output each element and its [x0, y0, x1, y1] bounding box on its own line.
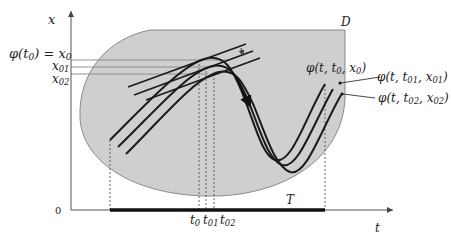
y-tick-x02: x02 — [52, 73, 69, 87]
x-axis-label: t — [375, 222, 380, 234]
interval-t-label: T — [286, 194, 294, 206]
origin-label: 0 — [55, 206, 61, 216]
curve-label-t01-x01: φ(t, t01, x01) — [377, 71, 448, 85]
x-tick-t0: t0 — [190, 214, 200, 228]
x-tick-t02: t02 — [220, 214, 236, 228]
y-axis-label: x — [48, 13, 55, 26]
solution-trajectories-diagram: x D φ(t0) = x0 x01 x02 0 t0 t01 t02 T t … — [0, 0, 451, 242]
curve-label-t02-x02: φ(t, t02, x02) — [378, 92, 449, 106]
region-d — [80, 30, 345, 196]
region-label: D — [341, 16, 351, 28]
x-tick-t01: t01 — [203, 214, 219, 228]
label-pointers — [341, 77, 380, 98]
curve-label-t0-x0: φ(t, t0, x0) — [306, 62, 366, 76]
